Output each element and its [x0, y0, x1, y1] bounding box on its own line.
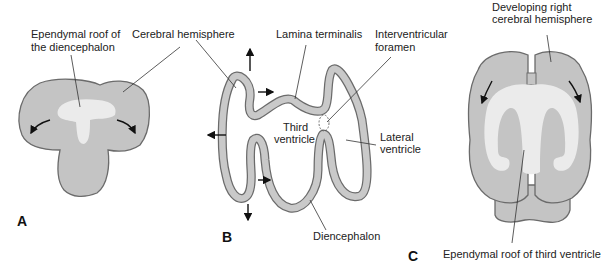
panel-c: Developing right cerebral hemisphere Epe… — [408, 1, 601, 264]
label-ependymal-roof-line1: Ependymal roof of — [31, 28, 121, 40]
label-lateral-ventricle-line1: Lateral — [380, 131, 414, 143]
interventricular-foramen-marker — [319, 115, 329, 131]
panel-b: Cerebral hemisphere Lamina terminalis In… — [132, 28, 448, 245]
label-developing-line1: Developing right — [492, 1, 572, 13]
panel-c-midline-bridge — [527, 73, 536, 85]
leader-cerebral-hemisphere-a — [123, 47, 180, 92]
label-third-ventricle-line1: Third — [283, 121, 308, 133]
leader-lamina-terminalis — [295, 45, 306, 99]
brain-development-diagram: Ependymal roof of the diencephalon A Cer… — [0, 0, 613, 271]
panel-b-label: B — [222, 229, 232, 245]
label-third-ventricle-line2: ventricle — [274, 133, 315, 145]
label-interventricular-line2: foramen — [375, 41, 415, 53]
label-ependymal-roof-line2: the diencephalon — [31, 41, 115, 53]
label-lamina-terminalis: Lamina terminalis — [276, 28, 363, 40]
label-lateral-ventricle-line2: ventricle — [380, 143, 421, 155]
leader-cerebral-hemisphere-b — [196, 40, 236, 88]
label-ependymal-roof-third-ventricle: Ependymal roof of third ventricle — [443, 248, 601, 260]
panel-c-lateral-ventricle-c-shapes — [484, 84, 578, 174]
panel-a: Ependymal roof of the diencephalon A — [17, 28, 180, 229]
label-developing-line2: cerebral hemisphere — [492, 13, 592, 25]
leader-diencephalon — [310, 200, 326, 230]
label-diencephalon: Diencephalon — [313, 230, 380, 242]
label-cerebral-hemisphere: Cerebral hemisphere — [132, 28, 235, 40]
panel-c-right-hemisphere — [535, 52, 592, 203]
label-interventricular-line1: Interventricular — [375, 28, 448, 40]
panel-c-label: C — [408, 248, 418, 264]
panel-a-label: A — [17, 213, 27, 229]
